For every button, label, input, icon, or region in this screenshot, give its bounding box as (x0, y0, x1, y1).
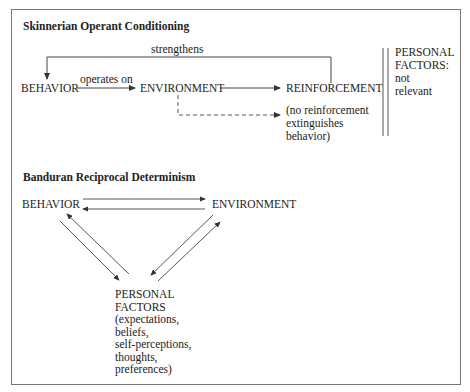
personal-factors-not-relevant: PERSONAL FACTORS: not relevant (395, 46, 454, 98)
skinner-title: Skinnerian Operant Conditioning (23, 20, 189, 33)
bandura-personal-factors-node: PERSONAL FACTORS (expectations, beliefs,… (115, 288, 191, 376)
no-reinforcement-note: (no reinforcement extinguishes behavior) (286, 104, 369, 143)
operates-on-label: operates on (80, 73, 133, 86)
bandura-behavior-node: BEHAVIOR (22, 198, 80, 211)
skinner-behavior-node: BEHAVIOR (21, 82, 79, 95)
behavior-to-personal-arrow (60, 221, 119, 280)
strengthens-label: strengthens (151, 43, 203, 56)
no-reinforcement-dashed-arrow (178, 95, 280, 115)
skinner-environment-node: ENVIRONMENT (140, 82, 224, 95)
personal-to-behavior-arrow (67, 214, 129, 274)
personal-to-environment-arrow (158, 222, 220, 281)
bandura-title: Banduran Reciprocal Determinism (23, 171, 195, 184)
reinforcement-node: REINFORCEMENT (286, 82, 382, 95)
environment-to-personal-arrow (151, 215, 213, 275)
bandura-environment-node: ENVIRONMENT (212, 198, 296, 211)
